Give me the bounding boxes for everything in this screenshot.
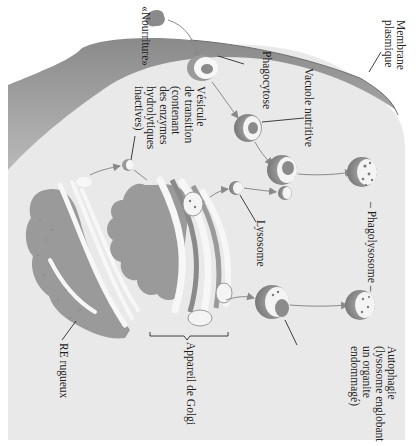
lysosome-small [229, 181, 243, 195]
label-rough-er: RE rugueux [57, 343, 70, 398]
autophagolysosome [345, 290, 375, 320]
label-food: «Nourriture» [139, 6, 152, 66]
label-autophagy: Autophagie (lysosome englobant un organi… [348, 346, 398, 442]
food-vacuole [234, 114, 262, 142]
transport-vesicle [122, 159, 134, 171]
label-transport-vesicle: Vésicule de transition (contenant des en… [132, 86, 207, 149]
label-lysosome: Lysosome [254, 220, 267, 267]
label-plasma-membrane: Membrane plasmique [382, 20, 407, 70]
label-phagolysosome: – Phagolysosome – [365, 202, 378, 291]
label-golgi: Appareil de Golgi [184, 342, 197, 425]
autophagy-vesicle [255, 285, 289, 319]
lysosome-diagram: «Nourriture» Membrane plasmique Phagocyt… [0, 0, 418, 446]
label-food-vacuole: Vacuole nutritive [302, 68, 315, 147]
phagolysosome [347, 157, 377, 187]
label-phagocytosis: Phagocytose [260, 51, 273, 109]
